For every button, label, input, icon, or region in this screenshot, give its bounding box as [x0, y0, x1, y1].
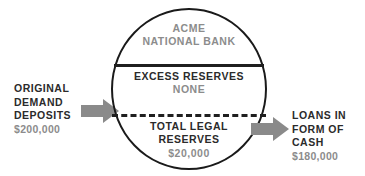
outflow-arrow-right-icon [251, 117, 289, 141]
inflow-label-group: ORIGINAL DEMAND DEPOSITS $200,000 [14, 82, 71, 137]
total-legal-reserves-label-line-1: TOTAL LEGAL [111, 120, 267, 133]
outflow-label-line-1: LOANS IN [292, 109, 346, 123]
inflow-label-line-2: DEMAND [14, 96, 71, 110]
bank-header-line-1: ACME [111, 22, 267, 35]
total-legal-reserves-label-line-2: RESERVES [111, 133, 267, 146]
excess-reserves-label: EXCESS RESERVES [111, 70, 267, 83]
outflow-label-line-2: FORM OF [292, 123, 346, 137]
divider-solid [114, 64, 264, 67]
outflow-amount: $180,000 [292, 150, 346, 164]
inflow-amount: $200,000 [14, 123, 71, 137]
bank-header-line-2: NATIONAL BANK [111, 35, 267, 48]
section-excess-reserves: EXCESS RESERVES NONE [111, 70, 267, 97]
divider-dashed [112, 114, 266, 117]
section-total-legal-reserves: TOTAL LEGAL RESERVES $20,000 [111, 120, 267, 160]
excess-reserves-value: NONE [111, 83, 267, 96]
inflow-label-line-3: DEPOSITS [14, 109, 71, 123]
outflow-label-group: LOANS IN FORM OF CASH $180,000 [292, 109, 346, 164]
total-legal-reserves-value: $20,000 [111, 147, 267, 160]
inflow-label-line-1: ORIGINAL [14, 82, 71, 96]
outflow-label-line-3: CASH [292, 136, 346, 150]
bank-header: ACME NATIONAL BANK [111, 22, 267, 49]
diagram-canvas: ORIGINAL DEMAND DEPOSITS $200,000 ACME N… [0, 0, 365, 176]
